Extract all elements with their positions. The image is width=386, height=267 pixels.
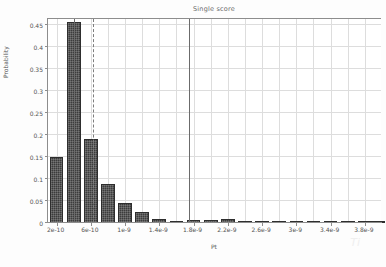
x-tick-label: 6e-10 bbox=[81, 226, 98, 233]
gridline-vertical bbox=[348, 19, 349, 223]
x-tick-label: 3.4e-9 bbox=[320, 226, 339, 233]
y-tick-mark bbox=[45, 90, 48, 91]
watermark: Ti bbox=[350, 236, 360, 249]
y-tick-label: 0.35 bbox=[30, 65, 43, 72]
reference-line-solid-left bbox=[74, 19, 75, 223]
y-tick-label: 0.15 bbox=[30, 153, 43, 160]
gridline-vertical bbox=[228, 19, 229, 223]
y-tick-mark bbox=[45, 68, 48, 69]
y-tick-label: 0.3 bbox=[33, 87, 43, 94]
y-tick-label: 0.1 bbox=[33, 175, 43, 182]
y-tick-label: 0.05 bbox=[30, 197, 43, 204]
chart-figure: Single score Probability Pt 00.050.10.15… bbox=[0, 0, 386, 267]
x-tick-label: 2e-10 bbox=[47, 226, 64, 233]
gridline-vertical bbox=[245, 19, 246, 223]
x-tick-label: 2.2e-9 bbox=[217, 226, 236, 233]
gridline-vertical bbox=[279, 19, 280, 223]
gridline-vertical bbox=[365, 19, 366, 223]
x-tick-label: 1.4e-9 bbox=[149, 226, 168, 233]
y-tick-mark bbox=[45, 178, 48, 179]
y-tick-mark bbox=[45, 46, 48, 47]
y-tick-label: 0.4 bbox=[33, 43, 43, 50]
gridline-vertical bbox=[176, 19, 177, 223]
bar bbox=[50, 157, 64, 223]
x-tick-label: 2.6e-9 bbox=[251, 226, 270, 233]
y-tick-label: 0.2 bbox=[33, 131, 43, 138]
gridline-vertical bbox=[313, 19, 314, 223]
y-tick-label: 0.25 bbox=[30, 109, 43, 116]
bar bbox=[84, 139, 98, 223]
gridline-vertical bbox=[262, 19, 263, 223]
y-tick-label: 0.45 bbox=[30, 21, 43, 28]
x-tick-label: 1.8e-9 bbox=[183, 226, 202, 233]
gridline-vertical bbox=[159, 19, 160, 223]
x-tick-label: 1e-9 bbox=[117, 226, 131, 233]
plot-area bbox=[47, 18, 381, 223]
x-tick-label: 3e-9 bbox=[289, 226, 303, 233]
gridline-vertical bbox=[142, 19, 143, 223]
bar bbox=[118, 203, 132, 223]
y-tick-mark bbox=[45, 112, 48, 113]
y-tick-mark bbox=[45, 200, 48, 201]
x-axis-line bbox=[47, 222, 382, 223]
bar bbox=[101, 184, 115, 223]
y-tick-label: 0 bbox=[39, 220, 43, 227]
chart-title: Single score bbox=[47, 5, 381, 13]
y-tick-mark bbox=[45, 24, 48, 25]
y-tick-mark bbox=[45, 134, 48, 135]
gridline-vertical bbox=[296, 19, 297, 223]
x-axis-title: Pt bbox=[47, 243, 381, 250]
gridline-vertical bbox=[125, 19, 126, 223]
gridline-vertical bbox=[194, 19, 195, 223]
reference-line-dashed bbox=[93, 19, 94, 223]
y-tick-mark bbox=[45, 156, 48, 157]
reference-line-solid-right bbox=[189, 19, 190, 223]
x-tick-label: 3.8e-9 bbox=[354, 226, 373, 233]
gridline-vertical bbox=[211, 19, 212, 223]
gridline-vertical bbox=[331, 19, 332, 223]
y-axis-title: Probability bbox=[2, 46, 9, 78]
